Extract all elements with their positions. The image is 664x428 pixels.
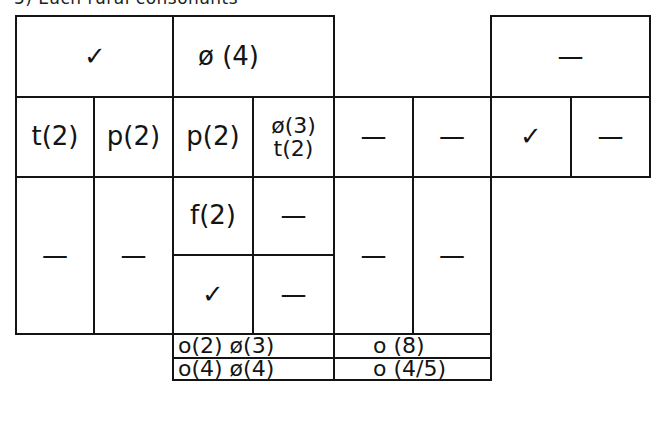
cell-r3-c6: — xyxy=(412,176,492,335)
dash-mark: — xyxy=(439,242,465,269)
cell-r3-c4-top: — xyxy=(252,176,335,256)
dash-mark: — xyxy=(281,281,307,308)
cell-r3-c4-bottom: — xyxy=(252,254,335,335)
cell-r3-c3-bottom: ✓ xyxy=(172,254,254,335)
dash-mark: — xyxy=(558,43,584,70)
cell-r1-c7-8: — xyxy=(490,15,651,98)
check-mark: ✓ xyxy=(202,281,224,308)
dash-mark: — xyxy=(598,123,624,150)
cell-r2-c5: — xyxy=(333,96,414,178)
cell-text-line1: ø(3) xyxy=(271,114,316,137)
cell-r2-c1: t(2) xyxy=(15,96,95,178)
cell-r3-c5: — xyxy=(333,176,414,335)
dash-mark: — xyxy=(361,242,387,269)
cell-r2-c8: — xyxy=(570,96,651,178)
summary-text: o (8) xyxy=(373,334,425,357)
check-mark: ✓ xyxy=(84,43,106,70)
clipped-header-text: 5) Each rural consonants xyxy=(14,0,238,8)
cell-r1-c1-2: ✓ xyxy=(15,15,175,98)
cell-r2-c7: ✓ xyxy=(490,96,572,178)
dash-mark: — xyxy=(121,242,147,269)
summary-text: o(4) ø(4) xyxy=(178,357,274,380)
cell-r2-c4: ø(3) t(2) xyxy=(252,96,335,178)
dash-mark: — xyxy=(361,123,387,150)
summary-r2-right: o (4/5) xyxy=(333,357,492,381)
summary-text: o (4/5) xyxy=(373,357,446,380)
cell-text: f(2) xyxy=(190,202,236,229)
cell-r3-c2: — xyxy=(93,176,174,335)
cell-r2-c6: — xyxy=(412,96,492,178)
cell-text-line2: t(2) xyxy=(274,137,314,160)
cell-r2-c2: p(2) xyxy=(93,96,174,178)
summary-text: o(2) ø(3) xyxy=(178,334,274,357)
dash-mark: — xyxy=(281,202,307,229)
dash-mark: — xyxy=(439,123,465,150)
cell-text: p(2) xyxy=(186,123,239,150)
cell-r3-c3-top: f(2) xyxy=(172,176,254,256)
summary-r2-left: o(4) ø(4) xyxy=(172,357,335,381)
dash-mark: — xyxy=(42,242,68,269)
summary-r1-left: o(2) ø(3) xyxy=(172,333,335,359)
cell-r3-c1: — xyxy=(15,176,95,335)
cell-r2-c3: p(2) xyxy=(172,96,254,178)
check-mark: ✓ xyxy=(520,123,542,150)
cell-r1-c3-4: ø (4) xyxy=(172,15,335,98)
summary-r1-right: o (8) xyxy=(333,333,492,359)
cell-text: t(2) xyxy=(31,123,78,150)
cell-text: ø (4) xyxy=(198,43,259,70)
cell-text: p(2) xyxy=(107,123,160,150)
